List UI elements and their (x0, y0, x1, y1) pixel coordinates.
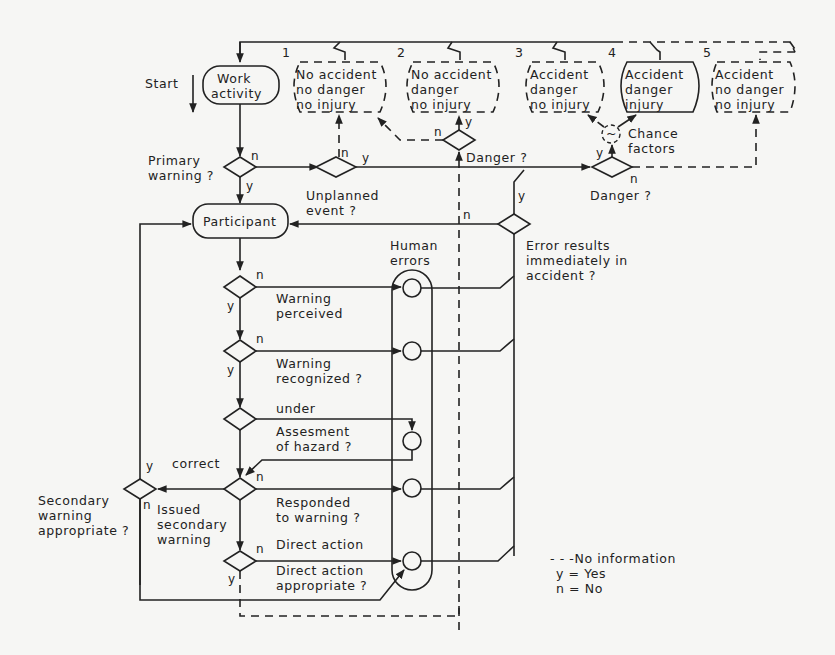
participant-node: Participant (193, 204, 288, 238)
svg-text:Warning: Warning (276, 291, 332, 306)
svg-text:- - -No information: - - -No information (550, 551, 676, 566)
svg-text:secondary: secondary (157, 517, 227, 532)
svg-text:immediately in: immediately in (526, 253, 628, 268)
svg-text:Danger ?: Danger ? (590, 188, 651, 203)
svg-text:n: n (256, 332, 264, 346)
legend: - - -No information y = Yes n = No (550, 551, 676, 596)
error-results-decision: n y Error results immediately in acciden… (463, 189, 628, 283)
unplanned-event-decision: n y Unplanned event ? (306, 146, 379, 218)
svg-text:correct: correct (172, 456, 220, 471)
svg-text:n: n (251, 149, 259, 163)
svg-text:Unplanned: Unplanned (306, 188, 379, 203)
flowchart-canvas: 1 No accident no danger no injury 2 No a… (0, 0, 835, 655)
svg-text:Start: Start (145, 76, 179, 91)
svg-text:No accident: No accident (296, 67, 377, 82)
svg-text:~: ~ (606, 126, 617, 141)
svg-text:perceived: perceived (276, 306, 343, 321)
direct-action-decision: n y Direct action Direct action appropri… (224, 537, 367, 593)
svg-text:Error results: Error results (526, 238, 610, 253)
svg-text:Accident: Accident (715, 67, 774, 82)
svg-text:recognized ?: recognized ? (276, 371, 362, 386)
outcome-5: 5 Accident no danger no injury (703, 45, 795, 112)
svg-text:warning ?: warning ? (148, 168, 214, 183)
secondary-warning-decision: y n Secondary warning appropriate ? Issu… (38, 459, 227, 547)
svg-text:Work: Work (217, 71, 251, 86)
svg-text:n = No: n = No (556, 581, 603, 596)
svg-text:n: n (256, 470, 264, 484)
svg-text:appropriate ?: appropriate ? (276, 578, 367, 593)
svg-text:2: 2 (397, 45, 406, 60)
svg-text:no injury: no injury (530, 97, 590, 112)
svg-text:Accident: Accident (625, 67, 684, 82)
svg-text:no injury: no injury (411, 97, 471, 112)
svg-text:4: 4 (608, 45, 617, 60)
svg-text:No accident: No accident (411, 67, 492, 82)
start-label: Start (145, 75, 193, 112)
outcome-4: 4 Accident danger injury (608, 45, 699, 112)
outcome-2: 2 No accident danger no injury (397, 45, 499, 112)
svg-text:Assesment: Assesment (276, 424, 350, 439)
warning-perceived-decision: n y Warning perceived (224, 268, 343, 321)
svg-text:errors: errors (390, 253, 430, 268)
svg-text:n: n (341, 146, 349, 160)
svg-text:Secondary: Secondary (38, 493, 110, 508)
svg-text:factors: factors (628, 141, 675, 156)
svg-text:n: n (256, 268, 264, 282)
svg-text:under: under (276, 401, 316, 416)
svg-text:accident ?: accident ? (526, 268, 596, 283)
svg-text:n: n (256, 542, 264, 556)
svg-text:n: n (434, 125, 442, 139)
svg-text:warning: warning (157, 532, 211, 547)
svg-text:danger: danger (411, 82, 459, 97)
svg-text:y = Yes: y = Yes (556, 566, 606, 581)
svg-text:Warning: Warning (276, 356, 332, 371)
svg-text:y: y (362, 151, 370, 165)
warning-recognized-decision: n y Warning recognized ? (224, 332, 362, 386)
danger-decision-top: Danger ? n y (434, 115, 527, 165)
svg-text:Human: Human (390, 238, 438, 253)
svg-text:n: n (143, 498, 151, 512)
svg-text:Responded: Responded (276, 495, 351, 510)
svg-text:no injury: no injury (715, 97, 775, 112)
svg-text:y: y (465, 115, 473, 129)
svg-text:appropriate ?: appropriate ? (38, 523, 129, 538)
svg-text:3: 3 (515, 45, 524, 60)
human-errors-group: Human errors (390, 238, 438, 590)
svg-text:Direct action: Direct action (276, 563, 364, 578)
svg-text:y: y (228, 572, 236, 586)
svg-text:Primary: Primary (148, 153, 201, 168)
work-activity-node: Work activity (203, 66, 279, 104)
svg-text:Direct action: Direct action (276, 537, 364, 552)
svg-text:no danger: no danger (715, 82, 784, 97)
svg-text:no danger: no danger (296, 82, 365, 97)
svg-text:event ?: event ? (306, 203, 356, 218)
svg-text:Danger ?: Danger ? (466, 150, 527, 165)
svg-text:n: n (630, 172, 638, 186)
svg-text:Chance: Chance (628, 126, 678, 141)
svg-text:y: y (518, 189, 526, 203)
responded-decision: n Responded to warning ? (224, 470, 360, 525)
outcome-1: 1 No accident no danger no injury (282, 45, 386, 112)
svg-text:n: n (463, 208, 471, 222)
svg-text:y: y (227, 299, 235, 313)
svg-text:Accident: Accident (530, 67, 589, 82)
svg-text:y: y (146, 459, 154, 473)
primary-warning-decision: Primary warning ? n y (148, 149, 259, 193)
svg-text:y: y (596, 146, 604, 160)
outcome-number: 1 (282, 45, 291, 60)
svg-text:y: y (227, 363, 235, 377)
chance-factors: ~ Chance factors (602, 125, 678, 156)
outcome-3: 3 Accident danger no injury (515, 45, 604, 112)
svg-text:of hazard ?: of hazard ? (276, 439, 352, 454)
svg-text:5: 5 (703, 45, 712, 60)
svg-text:injury: injury (625, 97, 664, 112)
svg-text:Issued: Issued (157, 502, 201, 517)
svg-text:to warning ?: to warning ? (276, 510, 360, 525)
svg-text:danger: danger (625, 82, 673, 97)
svg-text:warning: warning (38, 508, 92, 523)
svg-text:no injury: no injury (296, 97, 356, 112)
svg-text:y: y (246, 179, 254, 193)
svg-text:danger: danger (530, 82, 578, 97)
svg-text:Participant: Participant (203, 214, 277, 229)
svg-text:activity: activity (211, 86, 262, 101)
